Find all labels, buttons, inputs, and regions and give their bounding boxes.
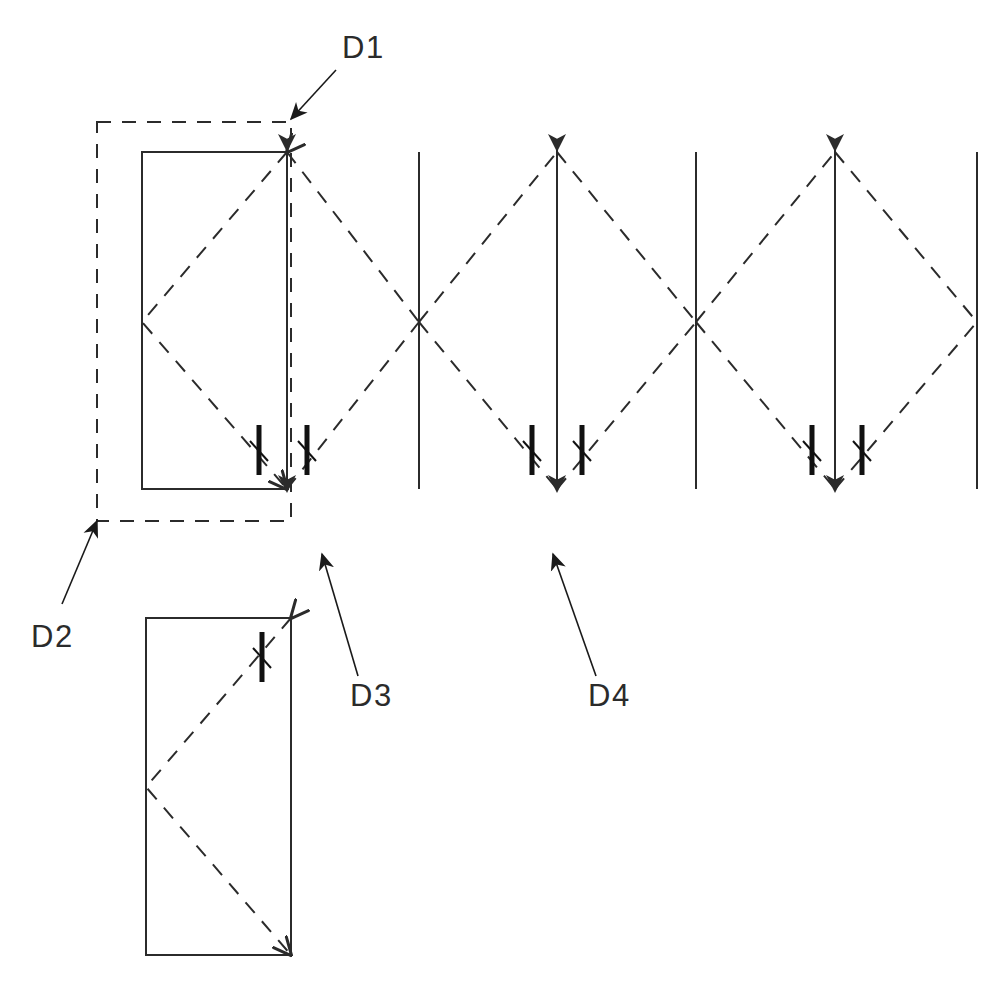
technical-drawing-svg: D1D2D3D4 — [0, 0, 995, 986]
label-d4: D4 — [588, 678, 631, 713]
label-d3: D3 — [350, 678, 393, 713]
drawing-canvas: D1D2D3D4 — [0, 0, 995, 986]
label-d1: D1 — [342, 30, 385, 65]
label-d2: D2 — [31, 619, 74, 654]
canvas-background — [0, 0, 995, 986]
